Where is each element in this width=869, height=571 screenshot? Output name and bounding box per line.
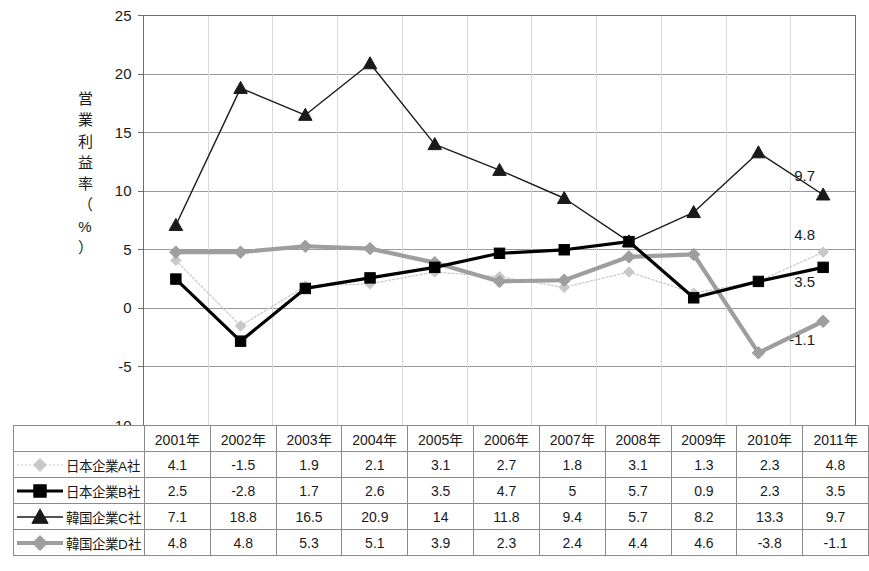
table-cell: 1.3 <box>671 452 737 478</box>
table-cell: -1.1 <box>803 530 869 556</box>
data-point-marker <box>818 262 828 272</box>
table-cell: 2.7 <box>474 452 540 478</box>
table-corner-cell <box>14 426 145 452</box>
data-point-marker <box>493 163 507 175</box>
y-tick-label: 15 <box>115 124 132 141</box>
y-tick-label: 10 <box>115 182 132 199</box>
table-cell: 14 <box>408 504 474 530</box>
table-cell: 3.9 <box>408 530 474 556</box>
data-point-marker <box>365 273 375 283</box>
data-point-marker <box>234 81 248 93</box>
table-cell: 8.2 <box>671 504 737 530</box>
table-col-header-2005年: 2005年 <box>408 426 474 452</box>
legend-label: 日本企業B社 <box>66 481 144 501</box>
data-point-marker <box>299 108 313 120</box>
data-point-marker <box>171 274 181 284</box>
data-table: 2001年2002年2003年2004年2005年2006年2007年2008年… <box>13 425 869 556</box>
table-cell: 4.8 <box>145 530 211 556</box>
table-row: 韓国企業C社7.118.816.520.91411.89.45.78.213.3… <box>14 504 869 530</box>
table-cell: 4.7 <box>474 478 540 504</box>
data-point-marker <box>169 218 183 230</box>
table-col-header-2003年: 2003年 <box>276 426 342 452</box>
data-point-marker <box>235 336 245 346</box>
data-point-marker <box>753 276 763 286</box>
table-cell: -2.8 <box>210 478 276 504</box>
data-table-wrapper: 2001年2002年2003年2004年2005年2006年2007年2008年… <box>13 425 856 556</box>
y-tick-label: 20 <box>115 65 132 82</box>
table-cell: 5 <box>539 478 605 504</box>
data-point-marker <box>818 247 829 258</box>
table-col-header-2010年: 2010年 <box>737 426 803 452</box>
data-point-marker <box>559 245 569 255</box>
table-cell: 3.1 <box>605 452 671 478</box>
legend-marker-triangle-icon <box>14 506 66 528</box>
data-label-b: 3.5 <box>794 273 815 290</box>
table-cell: 5.7 <box>605 478 671 504</box>
table-body: 日本企業A社4.1-1.51.92.13.12.71.83.11.32.34.8… <box>14 452 869 556</box>
data-point-marker <box>752 146 766 158</box>
data-label-c: 9.7 <box>794 167 815 184</box>
line-chart-plot: -10-505101520259.74.83.5-1.1 <box>0 0 868 430</box>
data-point-marker <box>299 240 312 253</box>
legend-marker-square-icon <box>14 480 66 502</box>
table-cell: 2.1 <box>342 452 408 478</box>
data-point-marker <box>624 236 634 246</box>
table-cell: 5.1 <box>342 530 408 556</box>
data-point-marker <box>558 274 571 287</box>
legend-label: 韓国企業D社 <box>66 533 145 553</box>
table-cell: 2.3 <box>474 530 540 556</box>
table-cell: 1.9 <box>276 452 342 478</box>
legend-cell-b: 日本企業B社 <box>14 478 145 504</box>
data-point-marker <box>430 262 440 272</box>
legend-marker-diamond-icon <box>14 532 66 554</box>
table-cell: 4.1 <box>145 452 211 478</box>
data-point-marker <box>363 57 377 69</box>
data-label-a: 4.8 <box>794 226 815 243</box>
legend-cell-d: 韓国企業D社 <box>14 530 145 556</box>
legend-cell-a: 日本企業A社 <box>14 452 145 478</box>
series-c <box>169 57 830 247</box>
table-cell: 0.9 <box>671 478 737 504</box>
table-cell: 18.8 <box>210 504 276 530</box>
table-cell: 20.9 <box>342 504 408 530</box>
table-cell: 3.5 <box>803 478 869 504</box>
data-point-marker <box>623 251 636 264</box>
table-cell: -1.5 <box>210 452 276 478</box>
table-cell: 1.7 <box>276 478 342 504</box>
table-col-header-2007年: 2007年 <box>539 426 605 452</box>
data-point-marker <box>300 283 310 293</box>
table-header: 2001年2002年2003年2004年2005年2006年2007年2008年… <box>14 426 869 452</box>
table-col-header-2009年: 2009年 <box>671 426 737 452</box>
y-tick-label: 25 <box>115 7 132 24</box>
table-cell: 5.3 <box>276 530 342 556</box>
table-cell: 4.6 <box>671 530 737 556</box>
table-col-header-2002年: 2002年 <box>210 426 276 452</box>
table-cell: 4.8 <box>210 530 276 556</box>
data-point-marker <box>816 188 830 200</box>
legend-label: 韓国企業C社 <box>66 507 145 527</box>
data-point-marker <box>235 321 246 332</box>
table-row: 韓国企業D社4.84.85.35.13.92.32.44.44.6-3.8-1.… <box>14 530 869 556</box>
table-cell: -3.8 <box>737 530 803 556</box>
table-header-row: 2001年2002年2003年2004年2005年2006年2007年2008年… <box>14 426 869 452</box>
table-cell: 9.7 <box>803 504 869 530</box>
table-cell: 16.5 <box>276 504 342 530</box>
table-col-header-2008年: 2008年 <box>605 426 671 452</box>
data-point-marker <box>494 248 504 258</box>
table-cell: 3.1 <box>408 452 474 478</box>
table-cell: 11.8 <box>474 504 540 530</box>
table-row: 日本企業A社4.1-1.51.92.13.12.71.83.11.32.34.8 <box>14 452 869 478</box>
table-col-header-2004年: 2004年 <box>342 426 408 452</box>
y-tick-label: 0 <box>123 299 131 316</box>
table-cell: 13.3 <box>737 504 803 530</box>
data-point-marker <box>688 293 698 303</box>
data-point-marker <box>170 246 183 259</box>
table-row: 日本企業B社2.5-2.81.72.63.54.755.70.92.33.5 <box>14 478 869 504</box>
table-cell: 2.6 <box>342 478 408 504</box>
data-label-d: -1.1 <box>789 331 815 348</box>
table-cell: 4.8 <box>803 452 869 478</box>
table-cell: 3.5 <box>408 478 474 504</box>
series-b <box>171 236 829 346</box>
table-cell: 2.5 <box>145 478 211 504</box>
